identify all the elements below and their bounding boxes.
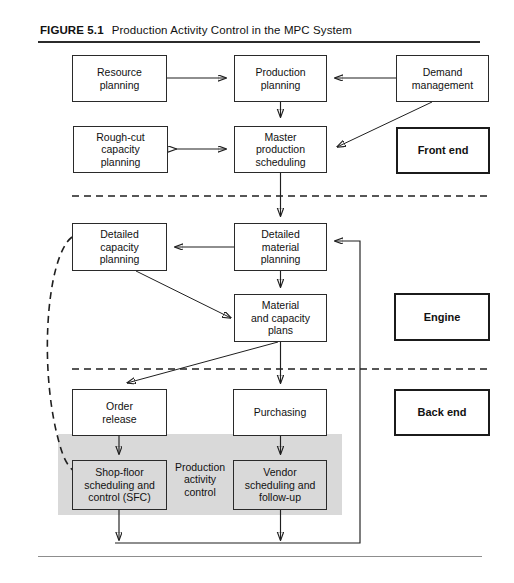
node-production-planning[interactable]: Production planning [234, 55, 327, 102]
node-order-release[interactable]: Order release [72, 389, 167, 436]
node-rough-cut-capacity-planning[interactable]: Rough-cut capacity planning [73, 126, 168, 173]
section-label-engine: Engine [394, 293, 490, 341]
node-master-production-scheduling[interactable]: Master production scheduling [234, 126, 327, 173]
node-resource-planning[interactable]: Resource planning [72, 55, 167, 102]
figure-container: FIGURE 5.1Production Activity Control in… [0, 0, 514, 583]
node-vendor-scheduling-and-follow-up[interactable]: Vendor scheduling and follow-up [233, 460, 327, 510]
node-detailed-material-planning[interactable]: Detailed material planning [234, 223, 327, 271]
node-shop-floor-scheduling-and-control[interactable]: Shop-floor scheduling and control (SFC) [72, 460, 167, 510]
edge-dcp-to-mcp [136, 271, 231, 318]
node-demand-management[interactable]: Demand management [396, 55, 489, 102]
node-purchasing[interactable]: Purchasing [233, 389, 327, 436]
label-production-activity-control: Production activity control [170, 461, 230, 498]
node-detailed-capacity-planning[interactable]: Detailed capacity planning [72, 223, 167, 271]
edge-dcp-to-sfc-dashed [47, 237, 104, 484]
node-material-and-capacity-plans[interactable]: Material and capacity plans [234, 294, 327, 342]
edge-mcp-to-order-release [127, 342, 278, 383]
section-label-front-end: Front end [396, 127, 490, 174]
section-label-back-end: Back end [394, 389, 490, 436]
